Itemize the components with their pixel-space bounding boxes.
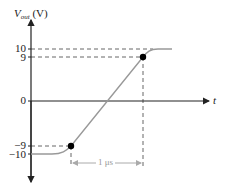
- y-axis-label-sub: out: [21, 13, 30, 21]
- y-axis-label-main: V: [14, 7, 21, 19]
- dimension-label: 1 μs: [96, 158, 115, 167]
- y-axis-label-unit: (V): [30, 7, 48, 19]
- x-axis-label: t: [213, 95, 216, 106]
- point-minus9: [68, 143, 74, 149]
- y-axis-label: Vout (V): [14, 8, 48, 21]
- tick-label-minus10: −10: [2, 149, 26, 160]
- tick-label-0: 0: [8, 95, 26, 106]
- point-9: [140, 54, 146, 60]
- tick-label-9: 9: [8, 52, 26, 63]
